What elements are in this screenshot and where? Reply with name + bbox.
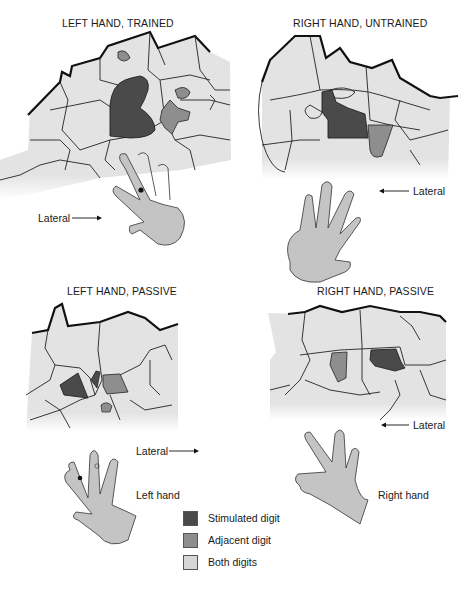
hand-right-untrained: [288, 182, 361, 283]
direction-label-left-passive: Lateral: [136, 445, 168, 457]
direction-label-right-passive: Lateral: [413, 419, 445, 431]
hand-left-passive: [65, 451, 136, 545]
legend-swatch-stimulated: [183, 511, 198, 526]
legend-label-adjacent: Adjacent digit: [208, 534, 271, 546]
direction-label-left-trained: Lateral: [38, 212, 70, 224]
cortex-map-right-untrained: [259, 36, 459, 180]
lateral-arrow-left-passive: [169, 449, 199, 454]
direction-label-right-untrained: Lateral: [413, 185, 445, 197]
hand-label-right: Right hand: [378, 489, 429, 501]
cortex-map-right-passive: [268, 306, 446, 420]
legend-label-both: Both digits: [208, 556, 257, 568]
lateral-arrow-left-trained: [72, 216, 102, 221]
legend-item-both: Both digits: [183, 551, 280, 573]
legend-item-stimulated: Stimulated digit: [183, 507, 280, 529]
lateral-arrow-right-untrained: [379, 189, 409, 194]
legend: Stimulated digit Adjacent digit Both dig…: [183, 507, 280, 573]
legend-swatch-adjacent: [183, 533, 198, 548]
legend-item-adjacent: Adjacent digit: [183, 529, 280, 551]
lateral-arrow-right-passive: [381, 423, 409, 428]
cortex-map-left-trained: [0, 32, 231, 200]
hand-label-left: Left hand: [136, 489, 180, 501]
hand-right-passive: [295, 430, 368, 524]
legend-label-stimulated: Stimulated digit: [208, 512, 280, 524]
legend-swatch-both: [183, 555, 198, 570]
cortex-map-left-passive: [26, 304, 178, 432]
